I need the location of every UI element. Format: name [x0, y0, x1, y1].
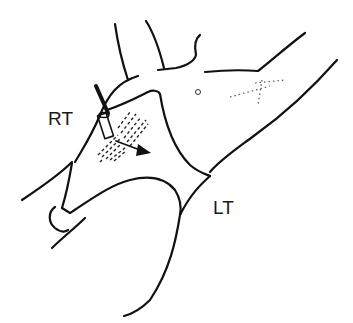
flank-upper	[107, 91, 210, 176]
hand-outline	[205, 33, 305, 72]
arm-outline-1	[115, 24, 128, 80]
hip-line	[22, 162, 72, 200]
thigh-curve	[124, 176, 210, 316]
back-line	[210, 60, 337, 172]
lower-leg	[52, 218, 85, 248]
arrow-head	[136, 144, 151, 156]
arm-outline-2	[146, 21, 164, 68]
dotted-marks	[230, 80, 285, 105]
left-flap	[62, 163, 181, 215]
label-left: LT	[213, 197, 234, 219]
umbilicus	[196, 90, 201, 95]
label-right: RT	[48, 108, 73, 130]
anatomical-drawing	[0, 0, 353, 323]
shoulder-line	[75, 76, 138, 162]
